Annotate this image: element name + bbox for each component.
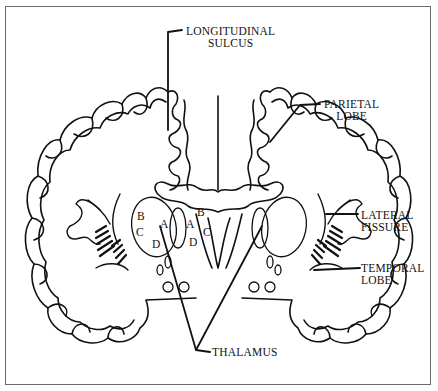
leader-parietal-lobe [270, 104, 320, 142]
cerebral-cortex-outline [25, 88, 412, 343]
nucleus-letter-b-right: B [197, 206, 205, 218]
leader-longitudinal-sulcus [168, 30, 182, 130]
label-temporal-lobe: TEMPORAL LOBE [361, 262, 425, 286]
leader-temporal-lobe [314, 268, 360, 270]
label-parietal-lobe: PARIETAL LOBE [324, 98, 379, 122]
nucleus-letter-b-left: B [137, 210, 145, 222]
nucleus-letter-c-left: C [136, 226, 144, 238]
nucleus-letter-a-left: A [160, 218, 169, 230]
leader-thalamus-left [160, 226, 210, 352]
label-longitudinal-sulcus: LONGITUDINAL SULCUS [186, 25, 275, 49]
corpus-callosum [155, 182, 283, 268]
nucleus-letter-c-right: C [203, 226, 211, 238]
nucleus-letter-a-right: A [186, 218, 195, 230]
nucleus-letter-d-left: D [152, 238, 161, 250]
label-thalamus: THALAMUS [212, 346, 278, 358]
longitudinal-fissure [168, 91, 270, 190]
leader-lines [160, 30, 360, 352]
insula-region [67, 194, 371, 270]
leader-thalamus-right [196, 226, 262, 350]
label-lateral-fissure: LATERAL FISSURE [361, 209, 414, 233]
brain-coronal-section [0, 0, 438, 391]
nucleus-letter-d-right: D [189, 236, 198, 248]
